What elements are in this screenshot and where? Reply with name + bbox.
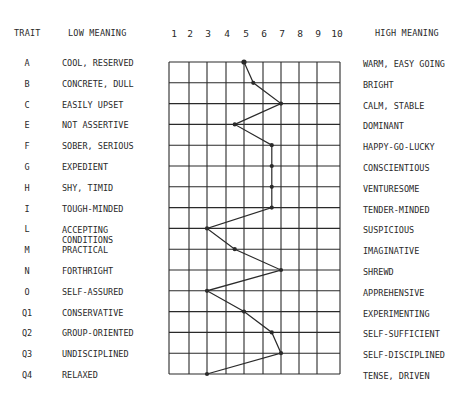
- data-point-a: [241, 59, 246, 64]
- data-point-n: [279, 268, 283, 272]
- data-point-l: [205, 226, 209, 230]
- data-point-h: [270, 185, 274, 189]
- data-point-b: [251, 81, 255, 85]
- data-point-m: [233, 247, 237, 251]
- data-point-i: [270, 206, 274, 210]
- data-point-c: [279, 102, 283, 106]
- data-point-q2: [270, 330, 274, 334]
- data-point-q3: [279, 351, 283, 355]
- data-point-f: [270, 143, 274, 147]
- data-point-g: [270, 164, 274, 168]
- data-point-o: [205, 289, 209, 293]
- data-point-q1: [242, 310, 246, 314]
- data-point-q4: [205, 372, 209, 376]
- profile-chart: [0, 0, 471, 403]
- data-point-e: [233, 122, 237, 126]
